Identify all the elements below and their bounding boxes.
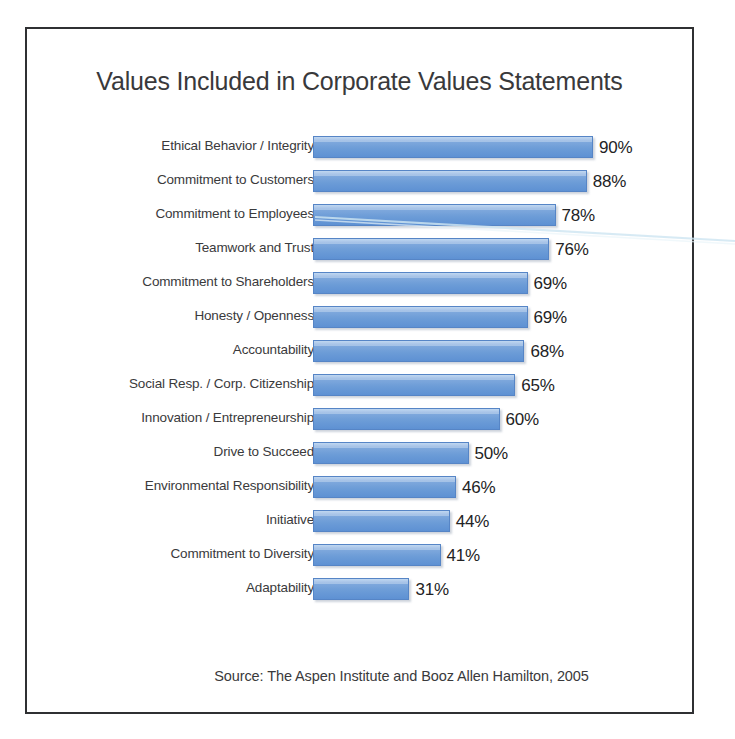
bar-track: 69% [313,306,696,330]
bar-track: 41% [313,544,696,568]
bar-row: Teamwork and Trust76% [27,234,696,268]
bar [313,442,469,464]
category-label: Drive to Succeed [24,444,314,459]
category-label: Initiative [24,512,314,527]
category-label: Innovation / Entrepreneurship [24,410,314,425]
bar-row: Drive to Succeed50% [27,438,696,472]
bar-row: Ethical Behavior / Integrity90% [27,132,696,166]
bar-track: 65% [313,374,696,398]
bar-value-label: 65% [521,376,554,396]
bar-value-label: 46% [462,478,495,498]
bar-value-label: 68% [530,342,563,362]
bar-track: 78% [313,204,696,228]
bar-track: 31% [313,578,696,602]
bar [313,476,456,498]
category-label: Accountability [24,342,314,357]
bar-row: Honesty / Openness69% [27,302,696,336]
bar-value-label: 41% [447,546,480,566]
category-label: Commitment to Shareholders [24,274,314,289]
clipped-text-line-above-figure [0,0,720,12]
bar [313,306,528,328]
bar-value-label: 78% [562,206,595,226]
chart-frame: Values Included in Corporate Values Stat… [25,27,694,714]
bar [313,510,450,532]
bar-track: 88% [313,170,696,194]
category-label: Commitment to Customers [24,172,314,187]
bar [313,374,515,396]
bar-row: Commitment to Employees78% [27,200,696,234]
bar-track: 69% [313,272,696,296]
bar [313,204,556,226]
bar-track: 90% [313,136,696,160]
bar-track: 76% [313,238,696,262]
bar [313,136,593,158]
bar-row: Environmental Responsibility46% [27,472,696,506]
bar-row: Accountability68% [27,336,696,370]
bar-row: Initiative44% [27,506,696,540]
bar-track: 46% [313,476,696,500]
bar-value-label: 44% [456,512,489,532]
chart-title: Values Included in Corporate Values Stat… [27,67,692,96]
bar-value-label: 69% [534,274,567,294]
bar-value-label: 76% [555,240,588,260]
bar [313,578,409,600]
bar-row: Adaptability31% [27,574,696,608]
category-label: Honesty / Openness [24,308,314,323]
category-label: Teamwork and Trust [24,240,314,255]
bar [313,238,549,260]
bar [313,272,528,294]
category-label: Commitment to Diversity [24,546,314,561]
bar-value-label: 90% [599,138,632,158]
category-label: Environmental Responsibility [24,478,314,493]
bar-row: Commitment to Customers88% [27,166,696,200]
bar [313,408,500,430]
source-note: Source: The Aspen Institute and Booz All… [27,668,692,684]
bar-value-label: 50% [475,444,508,464]
bar-row: Commitment to Shareholders69% [27,268,696,302]
category-label: Commitment to Employees [24,206,314,221]
bar-value-label: 69% [534,308,567,328]
bar-track: 50% [313,442,696,466]
category-label: Social Resp. / Corp. Citizenship [24,376,314,391]
bar-track: 68% [313,340,696,364]
bar-row: Commitment to Diversity41% [27,540,696,574]
bar-row: Innovation / Entrepreneurship60% [27,404,696,438]
bar [313,170,587,192]
bar-value-label: 60% [506,410,539,430]
bar-value-label: 88% [593,172,626,192]
bar [313,544,441,566]
bar-row: Social Resp. / Corp. Citizenship65% [27,370,696,404]
bar-track: 60% [313,408,696,432]
bar-value-label: 31% [415,580,448,600]
category-label: Adaptability [24,580,314,595]
bar [313,340,524,362]
plot-area: Ethical Behavior / Integrity90%Commitmen… [27,132,696,608]
bar-track: 44% [313,510,696,534]
category-label: Ethical Behavior / Integrity [24,138,314,153]
